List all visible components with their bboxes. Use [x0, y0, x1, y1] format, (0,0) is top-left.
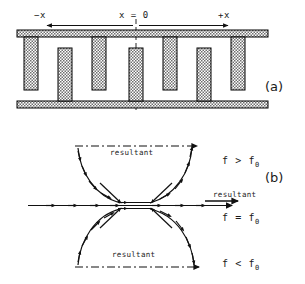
panel-b-label: (b) [265, 170, 283, 185]
condition-axis: f = f0 [222, 212, 260, 226]
panel-a-group [17, 19, 268, 110]
condition-axis-sub: 0 [255, 218, 260, 226]
condition-upper: f > f0 [222, 155, 260, 169]
lower-resultant-label: resultant [112, 250, 155, 259]
condition-lower-text: f < f [222, 258, 255, 269]
electrode-tooth-top-2 [92, 37, 106, 90]
condition-upper-text: f > f [222, 155, 255, 166]
panel-b-group [28, 146, 238, 267]
figure-canvas [0, 0, 305, 284]
panel-a-label: (a) [265, 79, 283, 94]
axis-resultant-label: resultant [213, 190, 256, 199]
label-negative-x: −x [34, 10, 46, 20]
bottom-electrode-plate [17, 101, 268, 108]
lower-trajectory-right [150, 209, 194, 265]
electrode-tooth-top-3 [163, 37, 177, 90]
condition-upper-sub: 0 [255, 161, 260, 169]
electrode-tooth-top-4 [231, 37, 245, 90]
label-origin: x = 0 [119, 10, 149, 20]
condition-axis-text: f = f [222, 212, 255, 223]
condition-lower: f < f0 [222, 258, 260, 272]
electrode-tooth-bottom-3 [197, 48, 211, 101]
upper-resultant-label: resultant [110, 148, 153, 157]
electrode-tooth-bottom-1 [58, 48, 72, 101]
label-positive-x: +x [218, 10, 230, 20]
electrode-tooth-bottom-2 [129, 48, 143, 101]
upper-trajectory-right [150, 148, 192, 203]
electrode-tooth-top-1 [24, 37, 38, 90]
condition-lower-sub: 0 [255, 264, 260, 272]
top-electrode-plate [17, 30, 268, 37]
